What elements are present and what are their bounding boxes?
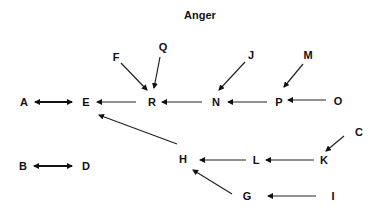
node-i: I	[331, 191, 334, 202]
node-r: R	[148, 97, 156, 108]
node-o: O	[334, 96, 343, 107]
edge-f-r	[121, 63, 147, 90]
node-a: A	[20, 97, 28, 108]
node-k: K	[320, 155, 328, 166]
anger-causal-diagram: Anger A E R N P O F Q J M H L K C G I B …	[0, 0, 381, 214]
node-g: G	[243, 191, 252, 202]
edge-g-h	[193, 170, 232, 194]
node-e: E	[82, 97, 89, 108]
edge-m-p	[284, 64, 303, 87]
node-l: L	[253, 155, 260, 166]
edge-h-e	[99, 115, 177, 144]
node-n: N	[212, 97, 220, 108]
edge-q-r	[154, 57, 160, 88]
node-p: P	[275, 97, 282, 108]
node-f: F	[113, 52, 120, 63]
edges-layer	[0, 0, 381, 214]
node-d: D	[82, 161, 90, 172]
edge-c-k	[326, 136, 344, 151]
node-q: Q	[159, 42, 168, 53]
node-j: J	[248, 50, 254, 61]
node-c: C	[355, 127, 363, 138]
diagram-title: Anger	[184, 9, 216, 21]
node-b: B	[19, 161, 27, 172]
node-h: H	[179, 154, 187, 165]
edge-j-n	[219, 62, 245, 90]
node-m: M	[303, 50, 312, 61]
